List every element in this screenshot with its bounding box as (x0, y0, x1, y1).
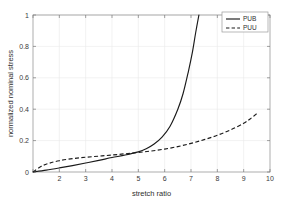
legend-label-pub: PUB (243, 15, 256, 22)
chart-legend: PUBPUU (222, 12, 268, 32)
y-tick-label: 0.6 (19, 74, 29, 81)
y-tick-label: 0.2 (19, 137, 29, 144)
x-axis-title: stretch ratio (132, 189, 171, 198)
chart-figure: 2345678910 00.20.40.60.81 stretch ratio … (0, 0, 284, 206)
line-chart: 2345678910 00.20.40.60.81 stretch ratio … (0, 0, 284, 206)
x-tick-label: 10 (266, 175, 274, 182)
x-tick-label: 4 (110, 175, 114, 182)
x-tick-label: 7 (189, 175, 193, 182)
y-tick-label: 0.4 (19, 106, 29, 113)
y-axis-title: normalized nominal stress (6, 50, 15, 137)
x-tick-label: 9 (242, 175, 246, 182)
x-tick-label: 6 (163, 175, 167, 182)
x-tick-label: 5 (136, 175, 140, 182)
x-tick-label: 2 (57, 175, 61, 182)
y-tick-label: 1 (25, 12, 29, 19)
legend-label-puu: PUU (243, 24, 257, 31)
y-tick-label: 0.8 (19, 43, 29, 50)
y-tick-label: 0 (25, 169, 29, 176)
x-tick-label: 8 (215, 175, 219, 182)
x-tick-label: 3 (84, 175, 88, 182)
